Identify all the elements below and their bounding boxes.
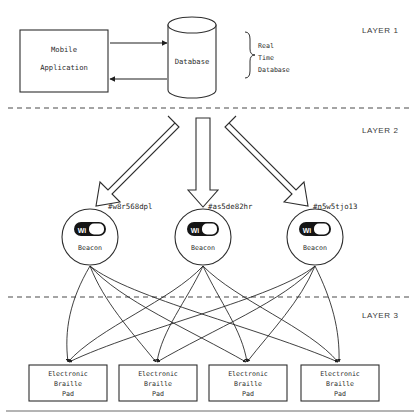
database-cylinder-top: [168, 17, 216, 33]
mobile-application-label-line2: Application: [40, 63, 88, 72]
beacon-1-hash: #w8r568dpl: [108, 202, 153, 211]
braille-pad-4-line2: Braille: [326, 380, 354, 388]
beacon-2-circle[interactable]: [175, 209, 231, 265]
layer-3-group: LAYER 3 Electronic Braille Pad: [29, 266, 399, 401]
beacon-3-label: Beacon: [303, 244, 327, 252]
wifi-icon-left-text: Wi: [78, 227, 87, 234]
mobile-application-box[interactable]: [20, 30, 108, 92]
layer-3-label: LAYER 3: [362, 311, 399, 320]
layer-2-group: LAYER 2 Wi Fi Beacon #w8r568dpl: [62, 116, 399, 265]
layer-2-label: LAYER 2: [362, 126, 399, 135]
braille-pad-4-line1: Electronic: [320, 370, 360, 378]
annotation-line1: Real: [258, 42, 274, 50]
braille-pad-3-line3: Pad: [242, 390, 254, 398]
braille-pad-3-line2: Braille: [234, 380, 262, 388]
braille-pad-3-node[interactable]: Electronic Braille Pad: [209, 365, 287, 401]
beacon-2-node[interactable]: Wi Fi Beacon #as5de82hr: [175, 202, 253, 265]
database-node[interactable]: Database: [168, 17, 216, 98]
annotation-line2: Time: [258, 54, 274, 62]
wifi-icon: Wi Fi: [187, 222, 219, 236]
beacon-2-label: Beacon: [191, 244, 215, 252]
braille-pad-2-line3: Pad: [152, 390, 164, 398]
brace-icon: [245, 32, 255, 78]
beacon-3-node[interactable]: Wi Fi Beacon #n5w5tjo13: [287, 202, 358, 265]
beacon-1-circle[interactable]: [62, 209, 118, 265]
wifi-icon-right-text: Fi: [206, 227, 212, 234]
block-arrow-left: [96, 116, 179, 206]
braille-pad-1-node[interactable]: Electronic Braille Pad: [29, 365, 107, 401]
wifi-icon-right-text: Fi: [318, 227, 324, 234]
braille-pad-2-node[interactable]: Electronic Braille Pad: [119, 365, 197, 401]
beacon-2-hash: #as5de82hr: [208, 202, 253, 211]
architecture-diagram: Mobile Application Database Real Time Da…: [0, 0, 420, 415]
braille-pad-4-node[interactable]: Electronic Braille Pad: [301, 365, 379, 401]
block-arrow-center: [188, 118, 218, 207]
beacon-1-label: Beacon: [78, 244, 102, 252]
layer-1-label: LAYER 1: [362, 26, 399, 35]
wifi-icon: Wi Fi: [74, 222, 106, 236]
beacon-3-hash: #n5w5tjo13: [313, 202, 358, 211]
layer-1-group: Mobile Application Database Real Time Da…: [20, 17, 399, 98]
braille-pad-4-line3: Pad: [334, 390, 346, 398]
braille-pad-1-line1: Electronic: [48, 370, 88, 378]
mobile-application-node[interactable]: Mobile Application: [20, 30, 108, 92]
wifi-icon-left-text: Wi: [303, 227, 312, 234]
database-label: Database: [175, 57, 210, 66]
braille-pad-1-line2: Braille: [54, 380, 82, 388]
wifi-icon-left-text: Wi: [191, 227, 200, 234]
real-time-database-annotation: Real Time Database: [245, 32, 290, 78]
annotation-line3: Database: [258, 66, 290, 74]
wifi-icon: Wi Fi: [299, 222, 331, 236]
beacon-1-node[interactable]: Wi Fi Beacon #w8r568dpl: [62, 202, 153, 265]
braille-pad-2-line2: Braille: [144, 380, 172, 388]
braille-pad-3-line1: Electronic: [228, 370, 268, 378]
block-arrow-right: [225, 116, 308, 206]
braille-pad-2-line1: Electronic: [138, 370, 178, 378]
beacon-3-circle[interactable]: [287, 209, 343, 265]
wifi-icon-right-text: Fi: [93, 227, 99, 234]
braille-pad-1-line3: Pad: [62, 390, 74, 398]
mobile-application-label-line1: Mobile: [51, 45, 77, 54]
beacon-pad-connection-mesh: [67, 266, 339, 362]
